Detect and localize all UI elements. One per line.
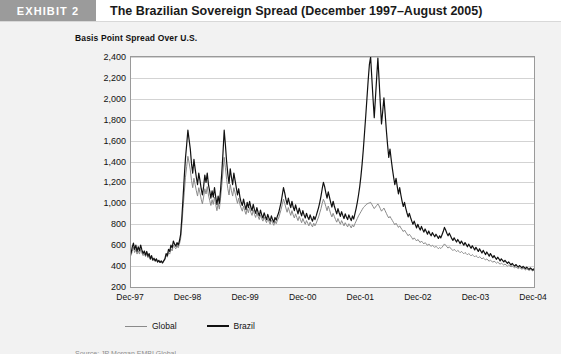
x-axis-tick-labels: Dec-97Dec-98Dec-99Dec-00Dec-01Dec-02Dec-… xyxy=(130,292,535,306)
x-axis-tick-label: Dec-00 xyxy=(289,292,316,302)
y-axis-tick-label: 1,200 xyxy=(74,177,126,187)
y-axis-tick-label: 200 xyxy=(74,282,126,292)
y-axis-title: Basis Point Spread Over U.S. xyxy=(75,33,197,43)
y-axis-tick-label: 1,400 xyxy=(74,157,126,167)
x-axis-tick-label: Dec-01 xyxy=(347,292,374,302)
legend-item-global[interactable]: Global xyxy=(125,321,177,331)
series-line-brazil xyxy=(131,57,534,270)
legend-swatch-global xyxy=(125,326,147,327)
x-axis-tick-label: Dec-04 xyxy=(519,292,546,302)
legend-label-brazil: Brazil xyxy=(234,321,255,331)
y-axis-tick-label: 2,400 xyxy=(74,52,126,62)
legend-swatch-brazil xyxy=(207,325,229,327)
chart-figure: Basis Point Spread Over U.S. 2,4002,2002… xyxy=(0,22,561,354)
legend-label-global: Global xyxy=(152,321,177,331)
exhibit-header: EXHIBIT 2 The Brazilian Sovereign Spread… xyxy=(0,0,561,21)
x-axis-tick-label: Dec-02 xyxy=(404,292,431,302)
y-axis-tick-labels: 2,4002,2002,0001,8001,6001,4001,2001,000… xyxy=(70,56,126,288)
chart-series-layer xyxy=(131,57,534,287)
y-axis-tick-label: 1,800 xyxy=(74,115,126,125)
y-axis-tick-label: 2,000 xyxy=(74,94,126,104)
x-axis-tick-label: Dec-99 xyxy=(231,292,258,302)
chart-legend: GlobalBrazil xyxy=(125,320,255,332)
exhibit-number-badge: EXHIBIT 2 xyxy=(0,0,96,21)
x-axis-tick-label: Dec-98 xyxy=(174,292,201,302)
y-axis-tick-label: 600 xyxy=(74,240,126,250)
y-axis-tick-label: 1,000 xyxy=(74,198,126,208)
chart-plot-area xyxy=(130,56,535,288)
x-axis-tick-label: Dec-03 xyxy=(462,292,489,302)
legend-item-brazil[interactable]: Brazil xyxy=(207,321,255,331)
y-axis-tick-label: 1,600 xyxy=(74,136,126,146)
y-axis-tick-label: 400 xyxy=(74,261,126,271)
x-axis-tick-label: Dec-97 xyxy=(116,292,143,302)
page-title: The Brazilian Sovereign Spread (December… xyxy=(110,0,482,21)
series-line-global xyxy=(131,156,534,271)
source-note: Source: JP Morgan EMBI Global xyxy=(75,350,176,354)
y-axis-tick-label: 2,200 xyxy=(74,73,126,83)
y-axis-tick-label: 800 xyxy=(74,219,126,229)
